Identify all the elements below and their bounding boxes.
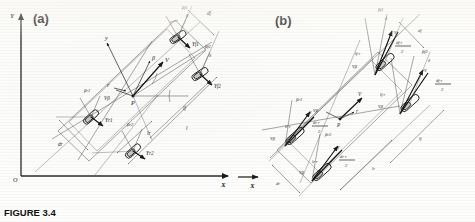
panel-b-velocity-label-V: V <box>358 91 362 97</box>
yaw-rate-vector-r <box>114 88 126 91</box>
witness-line-2 <box>200 31 219 74</box>
lateral-velocity-label: Vβ <box>104 95 110 101</box>
panel-b-cg-label: P <box>336 122 341 128</box>
panel-b-rl-slip-label: βr1 <box>295 97 302 102</box>
panel-b-dim-line-dr <box>272 165 300 193</box>
panel-b-lateral-velocity-line <box>326 112 340 119</box>
panel-b-dim-line-lf <box>390 110 444 163</box>
panel-b-dim-label-dr: dr <box>276 181 280 186</box>
body-y-axis-vector <box>107 43 133 96</box>
panel-a-global-axes: Y X O <box>10 12 229 189</box>
panel-b-fl-track-term: df r 2 <box>395 40 411 54</box>
panel-b-dim-line-df <box>399 22 424 48</box>
slip-angle-label-bf1: βf1 <box>181 5 188 10</box>
y-axis-label: Y <box>10 12 15 20</box>
panel-b: (b) X P V r Vβ <box>238 7 451 196</box>
panel-b-dim-label-lr: lr <box>372 166 375 171</box>
tire-force-label-Yr1: Yr1 <box>105 117 113 123</box>
panel-b-fl-slip-label: βf1 <box>377 7 384 12</box>
panel-b-fr-resultant <box>400 73 428 114</box>
slip-angle-label-bf2: βf2 <box>204 44 211 49</box>
panel-b-rl-vbeta-label: Vβ <box>270 136 276 141</box>
panel-b-label: (b) <box>275 13 292 28</box>
panel-a: Y X O y P V <box>10 5 229 189</box>
witness-line-1 <box>178 6 192 37</box>
panel-b-fr-long-label: lf r <box>380 92 386 97</box>
x-axis-arrow <box>222 173 229 179</box>
figure-container: Y X O y P V <box>0 0 475 222</box>
panel-a-wheel-rear-right: Yr2 βr2 <box>122 122 154 159</box>
panel-b-fl-steer-label: δ <box>385 16 388 21</box>
panel-b-rl-track-num: dr r <box>313 120 320 125</box>
velocity-label-V: V <box>165 56 170 63</box>
panel-a-label: (a) <box>33 11 49 26</box>
panel-b-rr-V-label: V <box>337 145 341 150</box>
panel-b-wheel-front-right: V lf r Vβ βf2 δ df r 2 <box>378 49 451 114</box>
dim-line-lf <box>150 83 208 138</box>
panel-b-wheel-front-left: V lf r Vβ βf1 δ df r 2 <box>352 7 411 75</box>
panel-b-fr-V-label: V <box>424 68 428 73</box>
panel-b-wheel-rear-right: V lr r Vβ βr2 dr r 2 <box>299 132 355 182</box>
dim-label-df: df <box>207 10 213 16</box>
panel-b-fr-track-den: 2 <box>441 87 444 92</box>
panel-b-rl-velocity-V <box>285 112 310 146</box>
x-axis-label: X <box>220 181 226 189</box>
tire-force-label-Yr2: Yr2 <box>146 150 154 156</box>
panel-b-lateral-velocity-label: Vβ <box>313 108 319 113</box>
panel-b-global-axes: X <box>238 177 258 190</box>
panel-b-fl-vbeta-label: Vβ <box>352 64 358 69</box>
panel-b-x-axis-label: X <box>249 182 255 190</box>
panel-b-dimensions: df dr lf lr <box>269 18 444 196</box>
dim-line-lr <box>117 121 152 153</box>
panel-b-fl-ref-line <box>365 18 375 75</box>
panel-b-fl-track-den: 2 <box>401 49 404 54</box>
panel-a-body-axes: y <box>104 34 205 96</box>
dim-line-dr <box>59 120 88 150</box>
panel-b-velocity-vector-V <box>340 98 362 119</box>
panel-b-fr-ref-line <box>391 58 400 114</box>
sideslip-angle-label: β <box>151 54 156 61</box>
tire-force-label-Yf2: Yf2 <box>214 83 221 89</box>
panel-b-dim-label-df: df <box>418 28 422 33</box>
cg-point-label: P <box>130 99 135 106</box>
wheel-rl-slip-ref <box>80 98 91 117</box>
figure-caption: FIGURE 3.4 <box>4 207 56 218</box>
wheel-fl-slip-ref <box>166 16 178 37</box>
construction-diagonal-1 <box>35 22 200 172</box>
panel-b-fr-track-num: df r <box>436 78 443 83</box>
dim-label-lr: lr <box>147 130 151 136</box>
dim-label-l: l <box>186 125 188 131</box>
body-y-axis-label: y <box>104 34 108 41</box>
panel-b-rl-track-den: 2 <box>318 129 321 134</box>
tire-force-vector-Yr2 <box>133 151 145 159</box>
slip-angle-label-br1: βr1 <box>83 88 90 93</box>
witness-line-5 <box>133 96 152 140</box>
panel-b-dim-label-lf: lf <box>419 136 422 141</box>
panel-b-rr-vbeta-label: Vβ <box>299 170 305 175</box>
dim-line-l <box>128 77 217 164</box>
panel-b-rr-track-term: dr r 2 <box>339 154 355 168</box>
panel-b-rr-track-num: dr r <box>340 154 347 159</box>
panel-b-fr-vbeta-label: Vβ <box>378 104 384 109</box>
panel-b-rr-track-den: 2 <box>345 163 348 168</box>
panel-b-fr-steer-label: δ <box>428 58 431 63</box>
y-axis-arrow <box>18 13 24 20</box>
panel-b-rr-slip-label: βr2 <box>324 132 332 137</box>
tire-force-vector-Yr1 <box>91 117 103 126</box>
panel-b-fr-track-term: df r 2 <box>435 78 451 92</box>
panel-b-fr-slip-label: βf2 <box>421 49 428 54</box>
tire-force-label-Yf1: Yf1 <box>192 41 199 47</box>
panel-b-witness-4 <box>299 172 322 196</box>
figure-3-4-svg: Y X O y P V <box>0 0 475 222</box>
panel-b-fl-long-label: lf r <box>355 51 361 56</box>
panel-b-fl-track-num: df r <box>396 40 403 45</box>
dim-label-dr: dr <box>58 141 64 147</box>
steer-angle-label-f2: δ <box>209 53 212 58</box>
origin-label: O <box>13 176 18 183</box>
slip-angle-label-br2: βr2 <box>126 122 134 127</box>
